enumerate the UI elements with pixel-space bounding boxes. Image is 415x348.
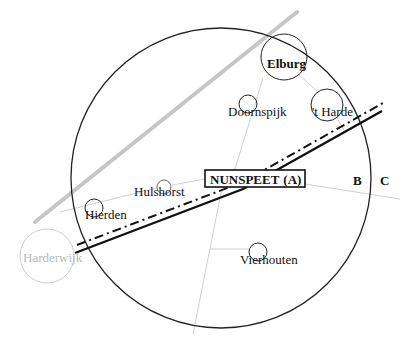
connector-elburg-tharde — [298, 74, 318, 92]
nunspeet-label-suffix: (A) — [283, 172, 301, 187]
zone-label-b: B — [353, 173, 362, 188]
connector-nunspeet-south — [193, 188, 222, 334]
nunspeet-label-main: NUNSPEET — [210, 172, 280, 187]
nunspeet-region-diagram: Elburg Doornspijk 't Harde Hulshorst Hie… — [0, 0, 415, 348]
town-label-tharde: 't Harde — [312, 104, 353, 119]
town-label-elburg: Elburg — [267, 56, 307, 71]
nunspeet-label: NUNSPEET(A) — [210, 172, 301, 187]
town-label-hulshorst: Hulshorst — [134, 184, 185, 199]
town-label-doornspijk: Doornspijk — [228, 104, 287, 119]
town-label-vierhouten: Vierhouten — [240, 252, 298, 267]
zone-label-c: C — [380, 173, 389, 188]
connector-elburg-nunspeet — [234, 78, 263, 172]
town-label-hierden: Hierden — [85, 207, 127, 222]
town-label-harderwijk: Harderwijk — [23, 250, 83, 265]
